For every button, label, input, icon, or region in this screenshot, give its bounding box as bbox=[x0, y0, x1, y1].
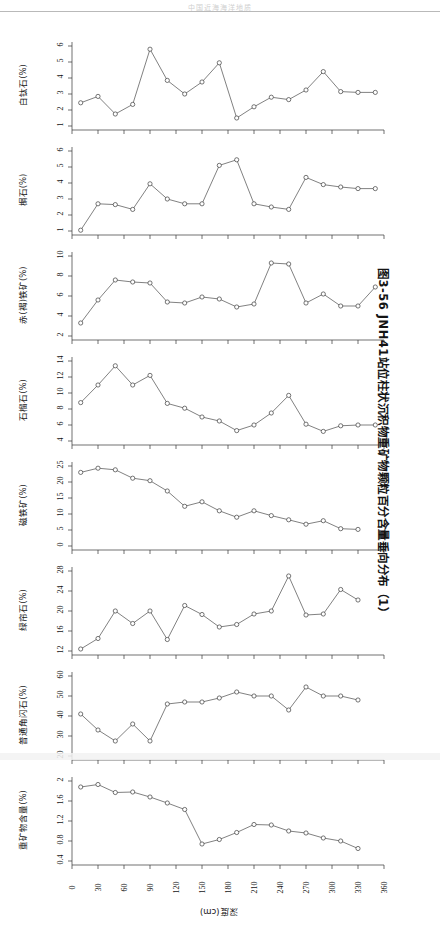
data-point-marker bbox=[269, 609, 273, 613]
data-point-marker bbox=[79, 401, 83, 405]
series-line bbox=[81, 160, 376, 230]
data-point-marker bbox=[183, 700, 187, 704]
data-point-marker bbox=[339, 694, 343, 698]
chart-panel: 246810赤(褐)铁矿(%) bbox=[0, 252, 392, 340]
data-point-marker bbox=[304, 422, 308, 426]
data-point-marker bbox=[200, 500, 204, 504]
data-point-marker bbox=[79, 228, 83, 232]
plot-area bbox=[0, 147, 392, 249]
data-point-marker bbox=[113, 468, 117, 472]
data-point-marker bbox=[148, 795, 152, 799]
x-tick-label: 240 bbox=[276, 873, 285, 903]
data-point-marker bbox=[131, 383, 135, 387]
series-line bbox=[81, 263, 376, 323]
data-point-marker bbox=[165, 78, 169, 82]
data-point-marker bbox=[373, 90, 377, 94]
data-point-marker bbox=[321, 519, 325, 523]
data-point-marker bbox=[96, 636, 100, 640]
plot-area bbox=[0, 567, 392, 669]
data-point-marker bbox=[165, 637, 169, 641]
data-point-marker bbox=[287, 262, 291, 266]
data-point-marker bbox=[131, 621, 135, 625]
data-point-marker bbox=[304, 88, 308, 92]
data-point-marker bbox=[356, 527, 360, 531]
x-tick-label: 360 bbox=[380, 873, 389, 903]
data-point-marker bbox=[252, 202, 256, 206]
header-rule bbox=[0, 11, 440, 12]
data-point-marker bbox=[304, 613, 308, 617]
data-point-marker bbox=[339, 185, 343, 189]
chart-panel: 123456白钛石(%) bbox=[0, 42, 392, 130]
chart-panel: 1216202428绿帘石(%) bbox=[0, 567, 392, 655]
data-point-marker bbox=[217, 61, 221, 65]
y-axis-label: 重矿物含量(%) bbox=[16, 776, 28, 864]
y-axis-label: 白钛石(%) bbox=[16, 41, 28, 129]
x-tick-label: 150 bbox=[198, 873, 207, 903]
data-point-marker bbox=[131, 102, 135, 106]
data-point-marker bbox=[148, 373, 152, 377]
data-point-marker bbox=[304, 301, 308, 305]
data-point-marker bbox=[200, 842, 204, 846]
data-point-marker bbox=[96, 728, 100, 732]
data-point-marker bbox=[321, 292, 325, 296]
data-point-marker bbox=[269, 261, 273, 265]
data-point-marker bbox=[321, 429, 325, 433]
data-point-marker bbox=[165, 801, 169, 805]
data-point-marker bbox=[165, 489, 169, 493]
data-point-marker bbox=[79, 101, 83, 105]
data-point-marker bbox=[321, 183, 325, 187]
data-point-marker bbox=[235, 690, 239, 694]
data-point-marker bbox=[304, 522, 308, 526]
data-point-marker bbox=[96, 383, 100, 387]
data-point-marker bbox=[148, 47, 152, 51]
data-point-marker bbox=[183, 807, 187, 811]
data-point-marker bbox=[131, 722, 135, 726]
data-point-marker bbox=[287, 393, 291, 397]
data-point-marker bbox=[269, 205, 273, 209]
data-point-marker bbox=[321, 836, 325, 840]
data-point-marker bbox=[217, 837, 221, 841]
data-point-marker bbox=[148, 281, 152, 285]
data-point-marker bbox=[252, 822, 256, 826]
chart-panel: 2030405060普通角闪石(%) bbox=[0, 672, 392, 760]
data-point-marker bbox=[200, 415, 204, 419]
x-axis-label: 深度(cm) bbox=[200, 907, 238, 919]
x-tick-label: 180 bbox=[224, 873, 233, 903]
data-point-marker bbox=[113, 112, 117, 116]
data-point-marker bbox=[217, 625, 221, 629]
data-point-marker bbox=[183, 504, 187, 508]
y-axis-label: 磁铁矿(%) bbox=[16, 461, 28, 549]
data-point-marker bbox=[269, 411, 273, 415]
data-point-marker bbox=[235, 429, 239, 433]
x-tick-label: 90 bbox=[146, 873, 155, 903]
x-tick-label: 120 bbox=[172, 873, 181, 903]
chart-panel: 123456榍石(%) bbox=[0, 147, 392, 235]
x-tick-label: 0 bbox=[68, 873, 77, 903]
data-point-marker bbox=[217, 163, 221, 167]
data-point-marker bbox=[217, 509, 221, 513]
data-point-marker bbox=[269, 823, 273, 827]
data-point-marker bbox=[339, 424, 343, 428]
data-point-marker bbox=[183, 92, 187, 96]
data-point-marker bbox=[165, 197, 169, 201]
data-point-marker bbox=[356, 423, 360, 427]
data-point-marker bbox=[235, 116, 239, 120]
plot-area bbox=[0, 42, 392, 144]
series-line bbox=[81, 49, 376, 118]
data-point-marker bbox=[252, 105, 256, 109]
data-point-marker bbox=[287, 829, 291, 833]
data-point-marker bbox=[235, 305, 239, 309]
data-point-marker bbox=[287, 518, 291, 522]
data-point-marker bbox=[148, 182, 152, 186]
chart-panel: 0.40.81.21.62重矿物含量(%) bbox=[0, 777, 392, 865]
data-point-marker bbox=[96, 298, 100, 302]
data-point-marker bbox=[373, 285, 377, 289]
data-point-marker bbox=[356, 598, 360, 602]
data-point-marker bbox=[321, 694, 325, 698]
data-point-marker bbox=[113, 609, 117, 613]
data-point-marker bbox=[287, 574, 291, 578]
data-point-marker bbox=[96, 202, 100, 206]
x-tick-label: 60 bbox=[120, 873, 129, 903]
chart-panel: 468101214石榴石(%) bbox=[0, 357, 392, 445]
data-point-marker bbox=[304, 175, 308, 179]
